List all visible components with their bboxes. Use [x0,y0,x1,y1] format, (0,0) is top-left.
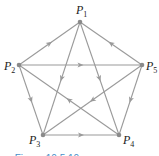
node-p5 [140,63,145,68]
arrowhead-icon [46,42,52,48]
node-label-p2: P2 [3,59,15,75]
figure-caption: ▲ Figure 10.5.10 [2,153,80,156]
node-label-p3: P3 [28,133,40,149]
node-label-p1: P1 [75,3,87,19]
arrowhead-icon [109,42,115,48]
node-p3 [41,133,46,138]
node-p4 [117,133,122,138]
node-p1 [78,20,83,25]
graph-nodes: P1P2P3P4P5 [3,3,157,149]
node-label-p5: P5 [145,59,157,75]
node-p2 [17,63,22,68]
node-label-p4: P4 [122,133,134,149]
arrowhead-icon [90,96,96,102]
graph-edges [19,22,142,138]
directed-graph: P1P2P3P4P5 ▲ Figure 10.5.10 [0,0,159,156]
arrowhead-icon [67,98,73,104]
